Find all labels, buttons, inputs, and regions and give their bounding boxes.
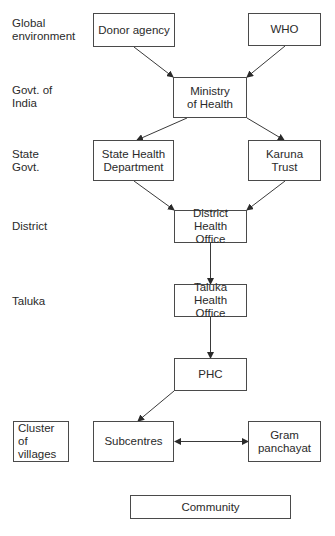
level-label-global: Global environment bbox=[12, 17, 75, 43]
flow-diagram: Global environment Govt. of India State … bbox=[0, 0, 335, 536]
node-phc: PHC bbox=[174, 358, 247, 391]
node-gram-panchayat: Gram panchayat bbox=[248, 421, 321, 462]
node-community: Community bbox=[130, 495, 291, 519]
node-taluka-health-office: Taluka Health Office bbox=[174, 284, 247, 317]
arrow-ministry-to-state-health bbox=[137, 118, 187, 140]
arrow-state-health-to-dho bbox=[134, 181, 174, 210]
node-subcentres: Subcentres bbox=[93, 421, 174, 462]
node-state-health-department: State Health Department bbox=[93, 140, 174, 181]
arrow-donor-to-ministry bbox=[134, 47, 173, 77]
arrow-phc-to-subcentres bbox=[138, 391, 174, 421]
level-label-state-govt: State Govt. bbox=[12, 148, 39, 174]
node-ministry-of-health: Ministry of Health bbox=[173, 77, 247, 118]
node-district-health-office: District Health Office bbox=[174, 210, 247, 243]
node-karuna-trust: Karuna Trust bbox=[248, 140, 321, 181]
node-donor-agency: Donor agency bbox=[93, 13, 175, 47]
node-cluster-of-villages: Cluster of villages bbox=[13, 421, 69, 462]
arrow-who-to-ministry bbox=[247, 46, 285, 77]
node-who: WHO bbox=[248, 13, 321, 46]
arrow-karuna-to-dho bbox=[247, 181, 285, 210]
level-label-taluka: Taluka bbox=[12, 295, 45, 308]
arrow-ministry-to-karuna bbox=[247, 118, 284, 140]
level-label-govt-india: Govt. of India bbox=[12, 84, 52, 110]
level-label-district: District bbox=[12, 220, 47, 233]
